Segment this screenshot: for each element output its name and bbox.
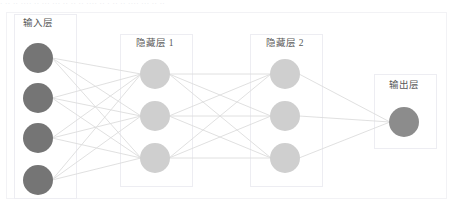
node-output-1[interactable] [389, 107, 419, 137]
neural-network-diagram: 输入层隐藏层 1隐藏层 2输出层 [0, 0, 452, 217]
node-hidden2-2[interactable] [270, 101, 300, 131]
layer-label-output: 输出层 [344, 77, 452, 91]
layer-label-hidden2: 隐藏层 2 [225, 35, 345, 49]
node-hidden1-2[interactable] [140, 101, 170, 131]
node-input-3[interactable] [23, 123, 53, 153]
node-hidden2-3[interactable] [270, 143, 300, 173]
layer-label-hidden1: 隐藏层 1 [95, 35, 215, 49]
node-hidden1-1[interactable] [140, 59, 170, 89]
network-svg [0, 0, 452, 217]
node-input-2[interactable] [23, 83, 53, 113]
node-hidden2-1[interactable] [270, 59, 300, 89]
node-input-1[interactable] [23, 43, 53, 73]
layer-label-input: 输入层 [0, 15, 98, 29]
node-input-4[interactable] [23, 165, 53, 195]
diagram-canvas: · ·· ·· ···· ·· ··· ··· ·· ·· ·· ···· ··… [0, 0, 452, 217]
node-hidden1-3[interactable] [140, 143, 170, 173]
